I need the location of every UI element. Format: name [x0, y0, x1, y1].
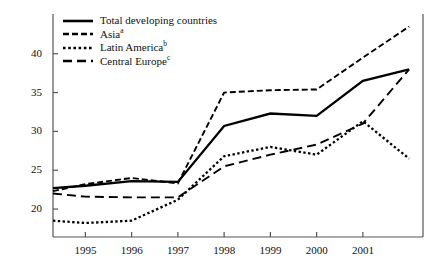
y-tick-label: 30	[10, 124, 42, 136]
legend-label-central-europe: Central Europec	[100, 55, 170, 69]
legend-text-central-europe: Central Europe	[100, 55, 167, 67]
series-line-total-developing-countries	[53, 69, 409, 188]
chart-legend: Total developing countries Asiaa Latin A…	[62, 14, 217, 68]
legend-swatch-short-dash	[62, 28, 94, 40]
y-tick-label: 40	[10, 47, 42, 59]
x-tick-label: 2000	[292, 244, 342, 256]
chart-figure: Total developing countries Asiaa Latin A…	[0, 0, 433, 270]
legend-swatch-dotted	[62, 42, 94, 54]
legend-text-latin-america: Latin America	[100, 41, 163, 53]
legend-text-asia: Asia	[100, 28, 120, 40]
x-tick-label: 1995	[60, 244, 110, 256]
x-tick-label: 1999	[245, 244, 295, 256]
series-line-central-europe	[53, 69, 409, 197]
series-line-latin-america	[53, 121, 409, 223]
x-tick-label: 1997	[153, 244, 203, 256]
x-tick-label: 2001	[338, 244, 388, 256]
legend-item-central-europe: Central Europec	[62, 55, 217, 69]
legend-superscript-latin-america: b	[163, 39, 167, 48]
y-tick-label: 25	[10, 163, 42, 175]
legend-superscript-central-europe: c	[167, 53, 170, 62]
legend-swatch-solid	[62, 15, 94, 27]
legend-label-latin-america: Latin Americab	[100, 41, 167, 55]
legend-swatch-long-dash	[62, 55, 94, 67]
legend-label-total-developing-countries: Total developing countries	[100, 14, 217, 28]
legend-label-asia: Asiaa	[100, 28, 124, 42]
x-tick-label: 1998	[199, 244, 249, 256]
legend-item-asia: Asiaa	[62, 28, 217, 42]
legend-item-total-developing-countries: Total developing countries	[62, 14, 217, 28]
x-tick-label: 1996	[107, 244, 157, 256]
y-tick-label: 35	[10, 86, 42, 98]
legend-item-latin-america: Latin Americab	[62, 41, 217, 55]
y-tick-label: 20	[10, 202, 42, 214]
legend-superscript-asia: a	[120, 26, 123, 35]
